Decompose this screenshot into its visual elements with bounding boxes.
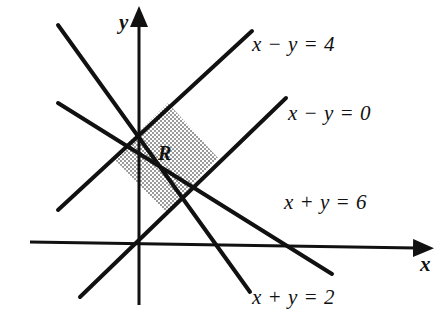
label-line-x-minus-y-0: x − y = 0 [288, 101, 371, 126]
y-axis-label: y [119, 10, 128, 35]
region-label-r: R [158, 142, 171, 165]
diagram-canvas [0, 0, 440, 332]
x-axis [30, 242, 416, 248]
x-axis-label: x [420, 252, 431, 277]
line-x-plus-y-6 [58, 103, 332, 274]
label-line-x-plus-y-2: x + y = 2 [252, 285, 335, 310]
math-figure: y x R x − y = 4 x − y = 0 x + y = 6 x + … [0, 0, 440, 332]
label-line-x-plus-y-6: x + y = 6 [284, 190, 367, 215]
label-line-x-minus-y-4: x − y = 4 [252, 32, 335, 57]
